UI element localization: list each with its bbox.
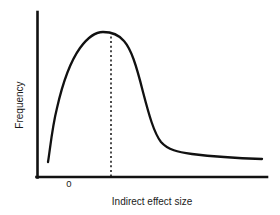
distribution-chart-figure: 0 Indirect effect size Frequency xyxy=(0,0,280,215)
x-axis-title: Indirect effect size xyxy=(112,197,192,207)
y-axis-title: Frequency xyxy=(15,81,25,128)
plot-canvas xyxy=(0,0,280,215)
frequency-distribution-curve xyxy=(48,32,262,162)
x-axis-tick-label-zero: 0 xyxy=(66,179,71,189)
